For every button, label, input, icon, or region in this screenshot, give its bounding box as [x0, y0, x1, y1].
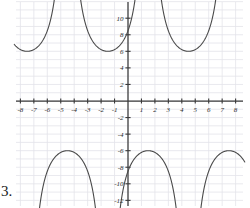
- svg-text:4: 4: [180, 106, 184, 114]
- curve-paths: [14, 0, 244, 208]
- svg-text:6: 6: [120, 48, 124, 56]
- svg-text:-12: -12: [114, 197, 124, 205]
- svg-text:7: 7: [220, 106, 224, 114]
- svg-text:-8: -8: [17, 106, 23, 114]
- svg-text:-8: -8: [118, 164, 124, 172]
- svg-text:2: 2: [153, 106, 157, 114]
- grid-lines: [16, 2, 243, 206]
- svg-text:8: 8: [234, 106, 238, 114]
- problem-number: 3.: [1, 184, 12, 199]
- svg-text:-6: -6: [118, 147, 124, 155]
- svg-text:-3: -3: [85, 106, 91, 114]
- svg-text:-6: -6: [44, 106, 50, 114]
- svg-text:4: 4: [120, 64, 124, 72]
- svg-text:5: 5: [194, 106, 198, 114]
- figure-container: -8-7-6-5-4-3-2-112345678108642-2-4-6-8-1…: [0, 0, 250, 208]
- graph-canvas: -8-7-6-5-4-3-2-112345678108642-2-4-6-8-1…: [0, 0, 250, 208]
- svg-text:-4: -4: [71, 106, 77, 114]
- svg-text:-1: -1: [112, 106, 118, 114]
- svg-text:-2: -2: [98, 106, 104, 114]
- svg-text:-2: -2: [118, 114, 124, 122]
- svg-text:-7: -7: [31, 106, 37, 114]
- svg-text:1: 1: [140, 106, 144, 114]
- svg-text:6: 6: [207, 106, 211, 114]
- svg-text:2: 2: [120, 81, 124, 89]
- svg-text:-4: -4: [118, 131, 124, 139]
- svg-text:-10: -10: [114, 180, 124, 188]
- svg-text:8: 8: [120, 31, 124, 39]
- svg-text:3: 3: [166, 106, 171, 114]
- svg-text:10: 10: [117, 15, 125, 23]
- svg-text:-5: -5: [58, 106, 64, 114]
